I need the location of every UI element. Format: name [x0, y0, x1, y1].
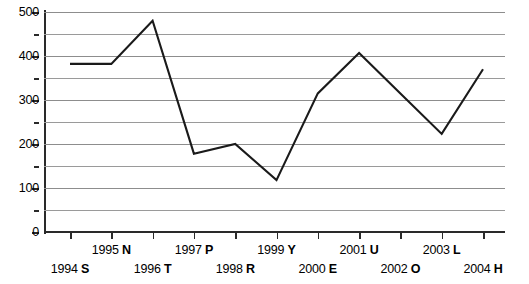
- x-label-code: O: [411, 262, 421, 276]
- x-axis-tick: [318, 232, 320, 239]
- x-label-year: 1999: [257, 243, 287, 257]
- plot-area: [44, 12, 505, 232]
- x-axis-tick: [483, 232, 485, 239]
- y-axis-labels: 0100200300400500: [0, 12, 39, 232]
- x-axis-tick-label: 1994 S: [51, 262, 89, 276]
- x-axis-tick: [277, 232, 279, 239]
- x-axis-labels: 1994 S1995 N1996 T1997 P1998 R1999 Y2000…: [0, 243, 529, 284]
- x-axis-tick: [235, 232, 237, 239]
- x-label-year: 2003: [423, 243, 453, 257]
- x-label-code: E: [329, 262, 337, 276]
- x-axis-tick: [400, 232, 402, 239]
- x-label-code: R: [246, 262, 255, 276]
- x-label-year: 2002: [380, 262, 410, 276]
- x-axis-tick-label: 1995 N: [92, 243, 131, 257]
- x-label-code: Y: [288, 243, 296, 257]
- x-label-year: 1996: [134, 262, 164, 276]
- x-axis-tick: [359, 232, 361, 239]
- y-axis-tick-minor: [34, 166, 39, 168]
- y-axis-tick-label: 100: [19, 181, 39, 195]
- y-axis-tick-label: 400: [19, 49, 39, 63]
- x-axis-tick-label: 2000 E: [299, 262, 337, 276]
- x-axis-tick-label: 1997 P: [175, 243, 213, 257]
- x-label-year: 2000: [299, 262, 329, 276]
- y-axis-tick-label: 500: [19, 5, 39, 19]
- x-label-code: S: [81, 262, 89, 276]
- x-label-year: 1995: [92, 243, 122, 257]
- y-axis-tick-label: 200: [19, 137, 39, 151]
- line-chart: 0100200300400500 1994 S1995 N1996 T1997 …: [0, 0, 529, 284]
- x-label-code: T: [164, 262, 171, 276]
- y-axis-tick-minor: [34, 78, 39, 80]
- x-axis-tick: [153, 232, 155, 239]
- x-label-year: 2001: [340, 243, 370, 257]
- x-label-code: N: [122, 243, 131, 257]
- x-axis-tick: [442, 232, 444, 239]
- y-axis-tick-minor: [34, 34, 39, 36]
- x-axis-tick-label: 1999 Y: [257, 243, 295, 257]
- x-axis-tick-label: 1996 T: [134, 262, 172, 276]
- x-label-year: 1994: [51, 262, 81, 276]
- x-axis-tick: [70, 232, 72, 239]
- y-axis-tick-label: 0: [32, 225, 39, 239]
- y-axis-tick-minor: [34, 122, 39, 124]
- x-axis-tick-label: 2001 U: [340, 243, 379, 257]
- y-axis-tick-label: 300: [19, 93, 39, 107]
- x-label-code: P: [205, 243, 213, 257]
- data-series-line: [44, 12, 505, 232]
- x-label-code: U: [370, 243, 379, 257]
- x-label-code: H: [494, 262, 503, 276]
- x-axis-tick-label: 2003 L: [423, 243, 461, 257]
- x-label-year: 1998: [216, 262, 246, 276]
- x-axis-tick-label: 2004 H: [463, 262, 502, 276]
- x-axis-tick: [194, 232, 196, 239]
- x-axis-tick-label: 1998 R: [216, 262, 255, 276]
- y-axis-tick-minor: [34, 210, 39, 212]
- x-axis-tick-label: 2002 O: [380, 262, 420, 276]
- x-label-code: L: [453, 243, 460, 257]
- x-axis-tick: [111, 232, 113, 239]
- x-label-year: 1997: [175, 243, 205, 257]
- x-label-year: 2004: [463, 262, 493, 276]
